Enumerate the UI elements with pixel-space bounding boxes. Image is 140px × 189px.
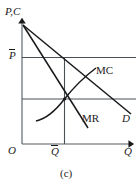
origin-label: O <box>8 145 16 156</box>
price-overbar-wrap: P <box>9 50 16 61</box>
y-axis-label: P,C <box>5 6 20 17</box>
marginal-revenue-curve-group <box>23 25 88 128</box>
quantity-level-tick-label: Q <box>51 146 59 157</box>
marginal-revenue-curve <box>23 25 88 128</box>
axes-group <box>22 22 130 144</box>
price-letter: P <box>9 49 16 61</box>
marginal-revenue-label: MR <box>82 113 99 124</box>
demand-curve-group <box>23 25 131 114</box>
x-axis-label: Q <box>124 146 132 157</box>
price-level-tick-label: P <box>9 50 16 61</box>
figure-canvas <box>0 0 140 189</box>
quantity-overbar-wrap: Q <box>51 146 59 157</box>
quantity-overbar <box>51 145 58 146</box>
demand-curve <box>23 25 131 114</box>
quantity-letter: Q <box>51 145 59 157</box>
equilibrium-point <box>63 97 66 100</box>
figure-caption: (c) <box>60 168 72 179</box>
equilibrium-point-group <box>63 97 66 100</box>
demand-label: D <box>122 113 130 124</box>
economics-figure: P,C P MC MR D O Q Q (c) <box>0 0 140 189</box>
marginal-cost-label: MC <box>96 65 113 76</box>
price-overbar <box>9 49 15 50</box>
